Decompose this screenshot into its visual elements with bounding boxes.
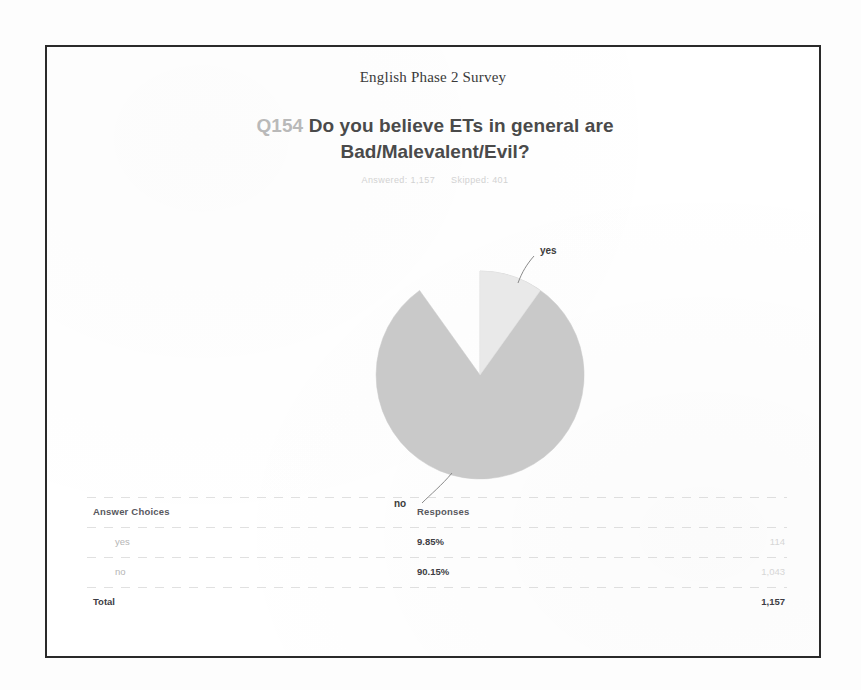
table-total-row: Total 1,157 (87, 587, 787, 617)
results-table: Answer Choices Responses yes 9.85% 114 n… (87, 497, 787, 622)
row-divider (87, 497, 787, 498)
question-block: Q154 Do you believe ETs in general are B… (167, 113, 703, 185)
question-heading-line-1: Q154 Do you believe ETs in general are (167, 113, 703, 139)
row-label-total: Total (93, 596, 115, 607)
response-meta: Answered: 1,157Skipped: 401 (167, 175, 703, 185)
question-text-line-2: Bad/Malevalent/Evil? (167, 139, 703, 165)
pie-chart-svg: yes no (282, 192, 682, 512)
pie-chart: yes no (282, 192, 682, 512)
row-label-no: no (115, 566, 126, 577)
table-header-row: Answer Choices Responses (87, 497, 787, 527)
row-count-yes: 114 (687, 536, 785, 547)
page-border-frame: English Phase 2 Survey Q154 Do you belie… (45, 45, 821, 658)
row-count-total: 1,157 (687, 596, 785, 607)
column-header-answer-choices: Answer Choices (93, 506, 170, 517)
row-divider (87, 527, 787, 528)
scanned-page: English Phase 2 Survey Q154 Do you belie… (0, 0, 861, 690)
page-title: English Phase 2 Survey (47, 69, 819, 86)
table-row: no 90.15% 1,043 (87, 557, 787, 587)
row-count-no: 1,043 (687, 566, 785, 577)
row-label-yes: yes (115, 536, 130, 547)
question-number: Q154 (256, 115, 303, 136)
skipped-count: Skipped: 401 (451, 175, 508, 185)
row-divider (87, 587, 787, 588)
answered-count: Answered: 1,157 (362, 175, 436, 185)
column-header-responses: Responses (417, 506, 470, 517)
pie-label-yes: yes (540, 245, 557, 256)
row-percent-no: 90.15% (417, 566, 449, 577)
question-text-line-1: Do you believe ETs in general are (309, 115, 614, 136)
row-divider (87, 557, 787, 558)
row-percent-yes: 9.85% (417, 536, 444, 547)
table-row: yes 9.85% 114 (87, 527, 787, 557)
